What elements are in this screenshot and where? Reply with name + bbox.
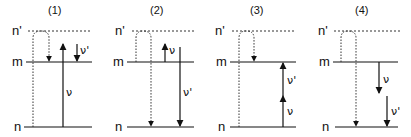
level-label-n: n [322, 119, 329, 134]
panel-number: (3) [250, 4, 263, 16]
arrow-nu-label: ν [287, 105, 293, 118]
arrow-nu-prime-label: ν' [80, 44, 89, 57]
arrow-nu-label: ν [383, 73, 389, 86]
level-label-m: m [216, 54, 227, 69]
level-label-m: m [113, 54, 124, 69]
arrow-nu-prime-label: ν' [391, 105, 400, 118]
arrow-nu-label: ν [169, 44, 175, 57]
level-label-m: m [319, 54, 330, 69]
level-label-n: n [115, 119, 122, 134]
level-label-n-prime: n' [318, 23, 328, 38]
level-label-n: n [218, 119, 225, 134]
level-label-m: m [12, 54, 23, 69]
virtual-transition-path [136, 31, 151, 126]
virtual-transition-path [33, 31, 49, 127]
level-label-n-prime: n' [115, 23, 125, 38]
virtual-transition-path [341, 31, 356, 126]
level-label-n-prime: n' [12, 23, 22, 38]
panel-4: (4) n' m n ν ν' [318, 4, 400, 134]
arrow-nu-label: ν [66, 86, 72, 99]
panel-3: (3) n' m n ν ν' [215, 4, 296, 134]
energy-level-diagram: (1) n' m n ν ν' (2) n' m n ν ν' (3) n' m… [0, 0, 411, 137]
panel-number: (2) [150, 4, 163, 16]
arrow-nu-prime-label: ν' [183, 86, 192, 99]
panel-number: (1) [48, 4, 61, 16]
panel-2: (2) n' m n ν ν' [113, 4, 194, 134]
virtual-transition-path [239, 31, 254, 127]
panel-1: (1) n' m n ν ν' [12, 4, 92, 134]
level-label-n: n [14, 119, 21, 134]
level-label-n-prime: n' [215, 23, 225, 38]
arrow-nu-prime-label: ν' [287, 74, 296, 87]
panel-number: (4) [355, 4, 368, 16]
